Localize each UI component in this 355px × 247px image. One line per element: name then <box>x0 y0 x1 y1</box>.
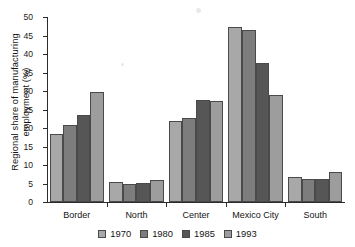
bar <box>228 27 242 202</box>
legend: 1970198019851993 <box>0 228 355 239</box>
legend-swatch <box>224 230 232 238</box>
x-axis-category-label: Border <box>47 210 107 220</box>
y-axis-tick-label: 45 <box>7 31 33 41</box>
x-axis-line <box>47 202 345 203</box>
y-axis-tick <box>43 54 47 55</box>
bar <box>63 125 77 202</box>
bar <box>210 101 224 202</box>
scan-artifact-speck <box>196 8 201 13</box>
x-axis-tick <box>226 203 227 207</box>
bar <box>136 183 150 202</box>
y-axis-tick-label: 30 <box>7 86 33 96</box>
bar <box>50 134 64 202</box>
x-axis-category-label: North <box>107 210 167 220</box>
y-axis-tick <box>43 73 47 74</box>
bar-chart-figure: Regional share of manufacturing employme… <box>0 0 355 247</box>
x-axis-tick <box>107 203 108 207</box>
y-axis-line <box>47 17 48 203</box>
bar <box>302 179 316 202</box>
y-axis-tick-label: 25 <box>7 105 33 115</box>
bar <box>256 63 270 202</box>
x-axis-category-label: South <box>285 210 345 220</box>
bar-group <box>50 17 104 202</box>
y-axis-tick <box>43 184 47 185</box>
y-axis-tick-label: 50 <box>7 12 33 22</box>
legend-label: 1970 <box>110 228 131 239</box>
bar <box>150 180 164 202</box>
legend-item: 1980 <box>140 228 173 239</box>
legend-label: 1980 <box>152 228 173 239</box>
bar <box>329 172 343 202</box>
bar <box>90 92 104 202</box>
bar <box>109 182 123 202</box>
legend-item: 1993 <box>224 228 257 239</box>
bar-group <box>109 17 163 202</box>
y-axis-tick-label: 10 <box>7 160 33 170</box>
bar <box>182 118 196 202</box>
y-axis-tick <box>43 128 47 129</box>
bar <box>242 30 256 202</box>
y-axis-tick <box>43 165 47 166</box>
legend-item: 1985 <box>182 228 215 239</box>
bar-group <box>288 17 342 202</box>
y-axis-tick-label: 5 <box>7 179 33 189</box>
bar <box>315 179 329 202</box>
legend-label: 1985 <box>194 228 215 239</box>
bar <box>77 115 91 202</box>
legend-swatch <box>98 230 106 238</box>
legend-label: 1993 <box>236 228 257 239</box>
bar <box>123 184 137 202</box>
bar <box>196 100 210 202</box>
x-axis-category-label: Mexico City <box>226 210 286 220</box>
x-axis-tick <box>285 203 286 207</box>
bar-group <box>228 17 282 202</box>
bar-group <box>169 17 223 202</box>
bar <box>169 121 183 202</box>
y-axis-tick <box>43 202 47 203</box>
legend-swatch <box>182 230 190 238</box>
bar <box>269 95 283 202</box>
x-axis-tick <box>166 203 167 207</box>
legend-item: 1970 <box>98 228 131 239</box>
y-axis-tick-label: 0 <box>7 197 33 207</box>
y-axis-tick <box>43 147 47 148</box>
legend-swatch <box>140 230 148 238</box>
y-axis-tick-label: 20 <box>7 123 33 133</box>
y-axis-tick <box>43 17 47 18</box>
y-axis-tick <box>43 91 47 92</box>
plot-area: 05101520253035404550 BorderNorthCenterMe… <box>47 17 345 203</box>
y-axis-tick <box>43 110 47 111</box>
y-axis-tick-label: 15 <box>7 142 33 152</box>
y-axis-tick <box>43 36 47 37</box>
x-axis-category-label: Center <box>166 210 226 220</box>
y-axis-tick-label: 35 <box>7 68 33 78</box>
y-axis-tick-label: 40 <box>7 49 33 59</box>
bar <box>288 177 302 202</box>
